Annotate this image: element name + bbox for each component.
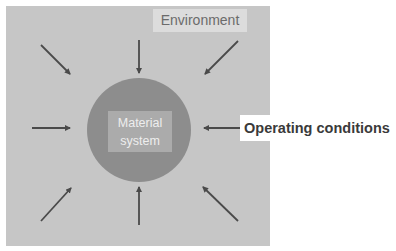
arrow-bottom-right-icon [203,187,238,221]
arrow-top-left-icon [41,45,70,74]
operating-conditions-label: Operating conditions [240,115,396,141]
arrow-bottom-left-icon [41,188,71,221]
arrow-top-right-icon [205,41,238,74]
